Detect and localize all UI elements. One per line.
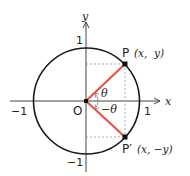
tick-y-neg: −1 bbox=[67, 156, 83, 169]
angle-label-neg-theta: −θ bbox=[101, 103, 117, 116]
y-axis-label: y bbox=[81, 10, 89, 23]
tick-x-pos: 1 bbox=[144, 105, 151, 118]
point-p-prime bbox=[123, 135, 128, 140]
point-p-prime-coords: (x, −y) bbox=[137, 143, 173, 155]
point-p bbox=[123, 62, 128, 67]
tick-x-neg: −1 bbox=[11, 105, 27, 118]
angle-label-theta: θ bbox=[101, 87, 108, 100]
point-p-coords: (x, y) bbox=[134, 47, 164, 59]
point-origin bbox=[84, 99, 88, 103]
x-axis-label: x bbox=[165, 95, 172, 108]
tick-y-pos: 1 bbox=[76, 34, 83, 47]
point-p-prime-name: P′ bbox=[122, 142, 132, 156]
origin-label: O bbox=[73, 104, 82, 118]
angle-arc-theta bbox=[95, 93, 98, 101]
point-p-name: P bbox=[122, 46, 129, 60]
unit-circle-diagram: y x 1 −1 −1 1 O θ −θ P (x, y) P′ (x, −y) bbox=[0, 0, 190, 176]
angle-arc-neg-theta bbox=[95, 101, 98, 109]
